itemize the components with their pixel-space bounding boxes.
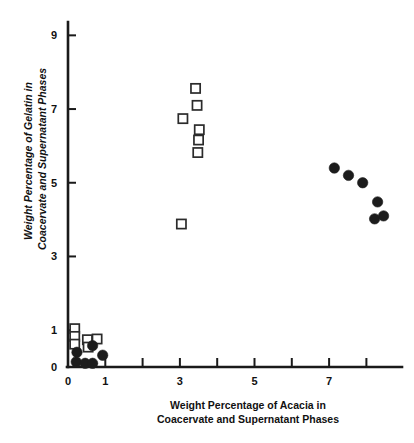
y-tick-label-9: 9 [51,29,57,41]
data-point [97,350,107,360]
x-tick-label-5: 5 [251,375,257,387]
data-point [191,84,200,93]
x-tick-label-3: 3 [177,375,183,387]
y-tick-label-7: 7 [51,103,57,115]
scatter-chart-figure: 013579 01357 Weight Percentage of Gelati… [0,0,414,443]
data-point [71,357,81,367]
scatter-plot-svg: 013579 01357 Weight Percentage of Gelati… [0,0,414,443]
data-point [192,101,201,110]
data-point [343,170,353,180]
data-point [372,197,382,207]
y-tick-label-1: 1 [51,324,57,336]
data-point [378,211,388,221]
x-axis-title-line2: Coacervate and Supernatant Phases [157,413,339,425]
y-tick-label-3: 3 [51,250,57,262]
y-tick-label-0: 0 [51,361,57,373]
data-point [87,340,97,350]
y-tick-label-5: 5 [51,177,57,189]
x-tick-label-1: 1 [102,375,108,387]
data-point [194,135,203,144]
data-point [195,125,204,134]
x-tick-label-7: 7 [326,375,332,387]
data-point [87,358,97,368]
data-point [177,219,186,228]
y-axis-title-line1: Weight Percentage of Gelatin in [22,82,34,240]
x-axis-title-line1: Weight Percentage of Acacia in [170,399,326,411]
data-point [72,347,82,357]
data-point [357,178,367,188]
y-axis-title-line2: Coacervate and Supernatant Phases [36,68,48,250]
chart-background [0,0,414,443]
data-point [193,148,202,157]
data-point [178,114,187,123]
x-tick-label-0: 0 [65,375,71,387]
data-point [329,163,339,173]
